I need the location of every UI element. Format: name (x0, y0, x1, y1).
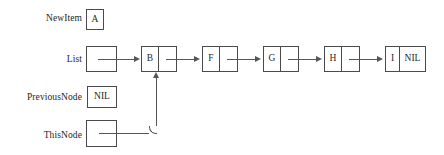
node-i: I NIL (385, 46, 426, 72)
node-h-data: H (325, 47, 342, 71)
node-f-data: F (203, 47, 220, 71)
node-i-next: NIL (400, 47, 425, 71)
pointer-thisnode-to-b-corner (149, 126, 157, 134)
newitem-label: NewItem (20, 14, 82, 24)
thisnode-label: ThisNode (18, 131, 82, 141)
newitem-box: A (86, 9, 104, 30)
pointer-h-to-i-line (349, 59, 377, 60)
pointer-list-to-b-line (98, 59, 134, 60)
node-i-data: I (386, 47, 400, 71)
previousnode-label: PreviousNode (2, 93, 82, 103)
pointer-g-to-h-arrow (316, 56, 322, 62)
pointer-b-to-f-line (166, 59, 194, 60)
pointer-g-to-h-line (288, 59, 316, 60)
pointer-b-to-f-arrow (194, 56, 200, 62)
node-b-data: B (142, 47, 159, 71)
pointer-thisnode-to-b-hline (99, 133, 149, 134)
pointer-h-to-i-arrow (377, 56, 383, 62)
newitem-value: A (87, 10, 103, 29)
pointer-thisnode-to-b-arrow (153, 72, 159, 78)
pointer-f-to-g-line (227, 59, 255, 60)
node-g-data: G (264, 47, 281, 71)
pointer-f-to-g-arrow (255, 56, 261, 62)
previousnode-box: NIL (87, 86, 117, 108)
linked-list-diagram: NewItem A List B F G H I NIL PreviousNo (0, 0, 444, 155)
list-label: List (24, 55, 82, 65)
pointer-list-to-b-arrow (134, 56, 140, 62)
previousnode-value: NIL (88, 87, 116, 107)
pointer-thisnode-to-b-vline (156, 78, 157, 126)
